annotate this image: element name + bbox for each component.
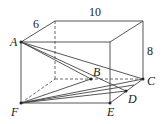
point-b-label: B xyxy=(93,66,100,78)
point-a-label: A xyxy=(10,36,17,48)
height-label: 8 xyxy=(147,45,153,57)
point-e-label: E xyxy=(107,106,114,118)
point-f-label: F xyxy=(11,106,18,118)
point-d-label: D xyxy=(128,93,137,105)
diagram-lines xyxy=(0,0,164,124)
box-diagram: 6 10 8 A B C D E F xyxy=(0,0,164,124)
depth-label: 6 xyxy=(33,18,39,30)
width-label: 10 xyxy=(89,6,101,18)
point-c-label: C xyxy=(147,75,155,87)
